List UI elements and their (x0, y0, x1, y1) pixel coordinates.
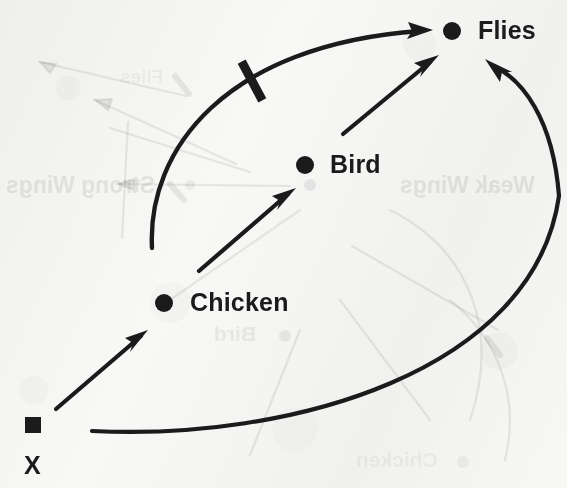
node-marker-bird[interactable] (296, 156, 314, 174)
edge-chicken-to-flies-blocked (152, 22, 433, 248)
inhibition-bar-rect (238, 59, 267, 102)
node-label-chicken[interactable]: Chicken (190, 288, 289, 317)
edge-chicken-to-flies-curve (152, 31, 420, 248)
node-label-x[interactable]: X (24, 451, 41, 480)
node-label-bird[interactable]: Bird (330, 150, 381, 179)
edge-x-to-flies-long (92, 59, 559, 432)
edge-x-to-chicken (56, 330, 148, 409)
edge-bird-to-flies-shaft (343, 62, 430, 134)
edge-chicken-to-bird (199, 188, 296, 271)
node-label-flies[interactable]: Flies (478, 16, 536, 45)
edge-chicken-to-bird-shaft (199, 194, 288, 271)
inhibition-bar-icon (238, 59, 267, 102)
node-marker-flies[interactable] (443, 22, 461, 40)
edge-x-to-chicken-shaft (56, 336, 141, 409)
diagram-canvas: Strong Wings Weak Wings Bird Chicken Fli… (0, 0, 567, 488)
edge-x-to-flies-arrowhead (485, 59, 512, 82)
edge-x-to-flies-curve (92, 66, 559, 432)
edge-layer: .ink-line { stroke: #1b1b1b; fill: none;… (0, 0, 567, 488)
node-marker-x[interactable] (25, 417, 41, 433)
node-marker-chicken[interactable] (155, 294, 173, 312)
edge-bird-to-flies (343, 55, 439, 134)
